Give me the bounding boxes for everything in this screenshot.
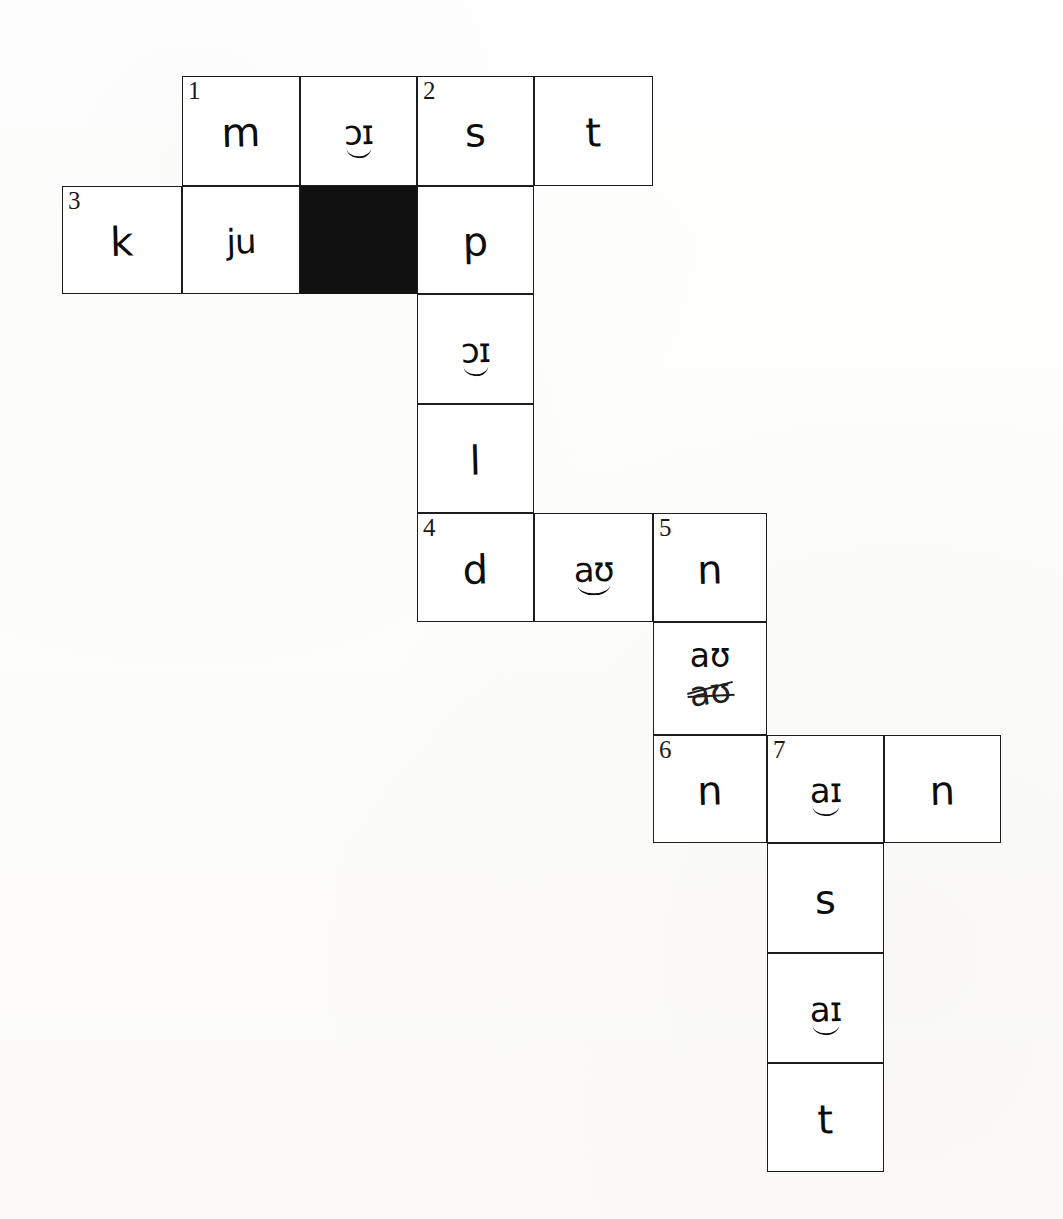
cell-letter: t: [767, 1098, 883, 1141]
crossword-cell[interactable]: 4d: [417, 513, 534, 622]
crossed-out-letter: aʊ: [686, 669, 733, 714]
crossword-cell[interactable]: ju: [182, 186, 300, 294]
scratch-marks: aʊ: [686, 669, 733, 714]
cell-letter: aʊ: [535, 550, 653, 587]
crossword-cell[interactable]: p: [417, 186, 534, 294]
crossword-cell[interactable]: aɪ: [767, 953, 884, 1063]
crossword-cell[interactable]: t: [767, 1063, 884, 1172]
crossword-cell[interactable]: 5n: [653, 513, 767, 622]
crossword-cell[interactable]: 6n: [653, 735, 767, 843]
crossword-cell[interactable]: n: [884, 735, 1001, 843]
cell-number: 2: [423, 78, 436, 103]
cell-number: 5: [659, 515, 672, 540]
cell-letter: aʊ: [654, 636, 766, 675]
cell-number: 4: [423, 515, 436, 540]
crossword-cell[interactable]: 3k: [62, 186, 182, 294]
cell-number: 1: [188, 78, 201, 103]
cell-letter: ɔɪ: [418, 332, 534, 369]
crossword-cell[interactable]: aʊ: [534, 513, 653, 622]
tie-bar-digraph: aɪ: [809, 992, 841, 1027]
cell-letter: aɪ: [768, 772, 884, 809]
cell-letter: s: [767, 878, 883, 921]
crossword-cell[interactable]: t: [534, 76, 653, 186]
cell-letter: aɪ: [768, 991, 884, 1028]
crossword-cell[interactable]: ɔɪ: [300, 76, 417, 186]
crossword-cell[interactable]: ɔɪ: [417, 294, 534, 404]
cell-letter: n: [653, 769, 766, 812]
crossword-cell[interactable]: s: [767, 843, 884, 953]
tie-bar-digraph: aʊ: [573, 551, 614, 586]
cell-number: 6: [659, 737, 672, 762]
cell-letter: ju: [183, 223, 300, 260]
crossword-cell[interactable]: aʊaʊ: [653, 622, 767, 735]
cell-letter: n: [884, 769, 1000, 812]
tie-bar-digraph: ɔɪ: [460, 333, 490, 368]
cell-letter: d: [417, 548, 533, 591]
cell-letter: l: [417, 439, 533, 482]
tie-bar-digraph: ɔɪ: [343, 115, 373, 150]
cell-number: 3: [68, 188, 81, 213]
cell-number: 7: [773, 737, 786, 762]
crossword-grid: 1mɔɪ2st3kjupɔɪl4daʊ5naʊaʊ6n7aɪnsaɪt: [0, 0, 1063, 1219]
cell-letter: m: [182, 111, 299, 154]
cell-letter: p: [417, 220, 533, 263]
crossword-cell[interactable]: l: [417, 404, 534, 513]
tie-bar-digraph: aɪ: [809, 773, 841, 808]
cell-letter: k: [62, 220, 181, 263]
blocked-cell: [300, 186, 417, 294]
cell-letter: ɔɪ: [301, 114, 417, 151]
cell-letter: s: [417, 111, 533, 154]
crossword-cell[interactable]: 7aɪ: [767, 735, 884, 843]
crossword-cell[interactable]: 2s: [417, 76, 534, 186]
crossword-cell[interactable]: 1m: [182, 76, 300, 186]
cell-letter: n: [653, 548, 766, 591]
cell-letter: t: [534, 111, 652, 154]
